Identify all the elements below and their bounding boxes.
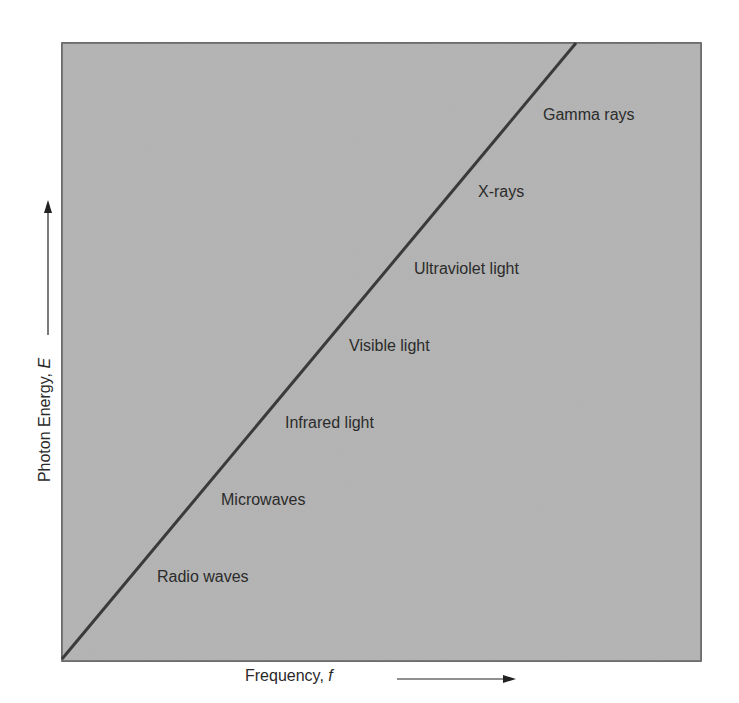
y-axis-label: Photon Energy, E [36,358,54,482]
label-ultraviolet-light: Ultraviolet light [414,260,519,278]
x-axis-variable: f [328,667,332,684]
x-axis-label: Frequency, f [245,667,333,685]
x-axis-label-text: Frequency, [245,667,328,684]
label-microwaves: Microwaves [221,491,305,509]
label-gamma-rays: Gamma rays [543,106,635,124]
y-axis-variable: E [36,358,53,369]
x-axis-arrow-icon [397,675,516,683]
y-axis-arrow-icon [44,200,52,335]
label-radio-waves: Radio waves [157,568,249,586]
label-infrared-light: Infrared light [285,414,374,432]
y-axis-label-text: Photon Energy, [36,369,53,483]
label-visible-light: Visible light [349,337,430,355]
label-x-rays: X-rays [478,183,524,201]
